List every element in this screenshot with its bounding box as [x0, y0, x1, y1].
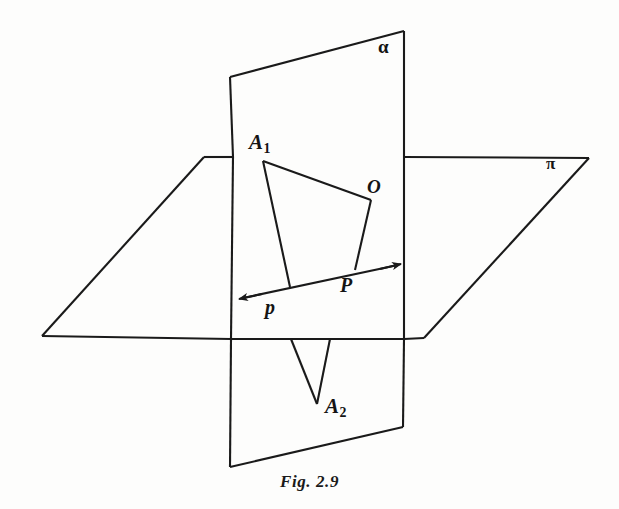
line-label-p: p	[265, 297, 275, 317]
plane-pi-edge-top-right	[404, 157, 589, 158]
plane-label-alpha: α	[378, 37, 389, 56]
line-p-arrow-right	[380, 264, 401, 269]
segment-A1-foot	[263, 161, 290, 287]
figure-caption: Fig. 2.9	[0, 472, 619, 492]
plane-alpha-edge-left-below	[230, 339, 231, 467]
plane-pi-edge-bottom-right	[404, 338, 424, 339]
segment-A1-O	[263, 161, 371, 200]
segment-to-A2-left	[291, 339, 317, 404]
figure-container: A1 A2 O P p α π Fig. 2.9	[0, 0, 619, 509]
line-p-arrow-left	[239, 294, 262, 299]
point-label-P: P	[340, 275, 352, 295]
plane-alpha-edge-left-middle	[231, 157, 233, 339]
line-p-segment	[243, 265, 398, 298]
plane-alpha-edge-bottom	[230, 427, 403, 467]
point-label-A1: A1	[249, 132, 270, 156]
plane-alpha-edge-right-below	[403, 339, 404, 427]
plane-label-pi: π	[546, 155, 555, 172]
geometry-diagram	[0, 0, 619, 509]
plane-pi-edge-right	[424, 158, 589, 338]
segment-O-P	[355, 200, 371, 270]
plane-alpha-edge-left-upper	[230, 77, 233, 157]
point-label-O: O	[367, 177, 381, 196]
plane-pi-edge-left	[42, 157, 204, 336]
plane-pi-edge-bottom-left	[42, 336, 231, 339]
point-label-A2: A2	[325, 396, 346, 420]
